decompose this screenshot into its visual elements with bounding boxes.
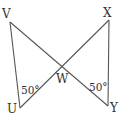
vertex-label-v: V <box>1 7 11 21</box>
vertex-label-w: W <box>56 72 69 86</box>
segment-xy <box>108 20 109 106</box>
angle-label-y: 50° <box>89 81 108 93</box>
vertex-label-u: U <box>7 102 17 116</box>
vertex-label-x: X <box>103 6 112 20</box>
segment-vu <box>10 22 20 108</box>
geometry-diagram: V X U Y W 50° 50° <box>0 0 119 118</box>
angle-label-u: 50° <box>21 84 40 96</box>
vertex-label-y: Y <box>109 101 119 115</box>
